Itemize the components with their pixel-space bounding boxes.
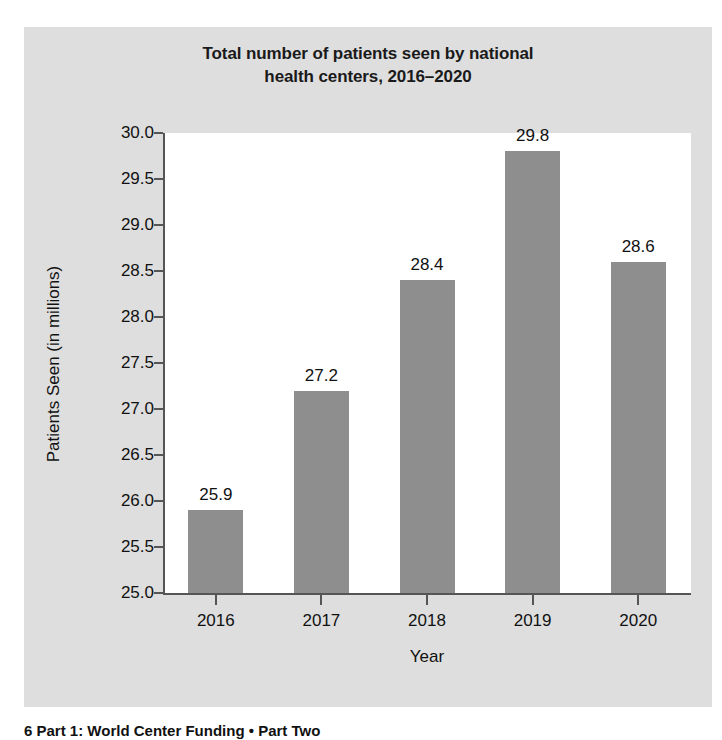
y-axis-line <box>163 133 165 595</box>
y-axis-tick-label: 30.0 <box>121 123 154 143</box>
figure-caption: 6 Part 1: World Center Funding • Part Tw… <box>24 722 712 740</box>
y-axis-tick-label: 27.0 <box>121 399 154 419</box>
x-axis-tick-label: 2019 <box>514 611 552 631</box>
bar-value-label: 29.8 <box>516 126 549 146</box>
y-axis-tick <box>154 132 163 134</box>
x-axis-tick-label: 2020 <box>619 611 657 631</box>
x-axis-tick-label: 2017 <box>302 611 340 631</box>
y-axis-tick-label: 29.0 <box>121 215 154 235</box>
x-axis-tick-label: 2016 <box>197 611 235 631</box>
chart-title-line-2: health centers, 2016–2020 <box>24 66 712 89</box>
bar: 28.6 <box>611 262 666 593</box>
y-axis-tick <box>154 592 163 594</box>
y-axis-tick-label: 25.0 <box>121 583 154 603</box>
chart-title-line-1: Total number of patients seen by nationa… <box>24 43 712 66</box>
y-axis-tick-label: 27.5 <box>121 353 154 373</box>
x-axis-tick <box>532 595 534 605</box>
y-axis-tick-label: 26.0 <box>121 491 154 511</box>
y-axis-tick <box>154 224 163 226</box>
y-axis-tick <box>154 178 163 180</box>
bar-value-label: 28.4 <box>410 255 443 275</box>
x-axis-tick <box>320 595 322 605</box>
plot-area: 25.927.228.429.828.6 30.029.529.028.528.… <box>163 133 691 595</box>
y-axis-tick-label: 25.5 <box>121 537 154 557</box>
y-axis-tick <box>154 454 163 456</box>
plot-canvas: 25.927.228.429.828.6 <box>163 133 691 595</box>
y-axis-tick <box>154 546 163 548</box>
y-axis-title: Patients Seen (in millions) <box>44 133 70 595</box>
y-axis-tick <box>154 408 163 410</box>
bar: 27.2 <box>294 391 349 593</box>
y-axis-tick-label: 29.5 <box>121 169 154 189</box>
x-axis-title: Year <box>163 647 691 667</box>
bar-value-label: 28.6 <box>622 237 655 257</box>
y-axis-tick-label: 26.5 <box>121 445 154 465</box>
chart-title: Total number of patients seen by nationa… <box>24 43 712 89</box>
bar: 25.9 <box>188 510 243 593</box>
bar-value-label: 25.9 <box>199 485 232 505</box>
figure-card: Total number of patients seen by nationa… <box>24 27 712 707</box>
x-axis-tick <box>426 595 428 605</box>
bar: 28.4 <box>400 280 455 593</box>
bar: 29.8 <box>505 151 560 593</box>
y-axis-tick-label: 28.0 <box>121 307 154 327</box>
x-axis-tick <box>215 595 217 605</box>
x-axis-tick-label: 2018 <box>408 611 446 631</box>
y-axis-tick <box>154 316 163 318</box>
bar-value-label: 27.2 <box>305 366 338 386</box>
y-axis-tick-label: 28.5 <box>121 261 154 281</box>
x-axis-tick <box>637 595 639 605</box>
y-axis-tick <box>154 362 163 364</box>
y-axis-tick <box>154 500 163 502</box>
y-axis-tick <box>154 270 163 272</box>
